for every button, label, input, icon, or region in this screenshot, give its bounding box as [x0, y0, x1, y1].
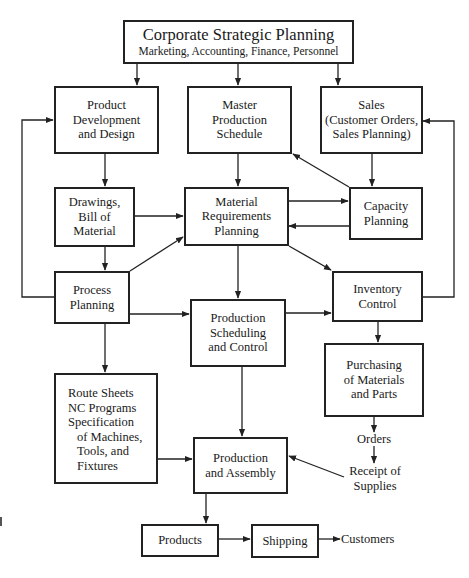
- node-inventory-control: Inventory Control: [332, 271, 423, 322]
- stray-mark: [0, 517, 2, 526]
- node-line: Planning: [70, 298, 114, 313]
- node-line: and Control: [208, 340, 267, 355]
- node-line: Scheduling: [210, 326, 266, 341]
- node-line: Material: [215, 195, 257, 210]
- node-line: and Design: [78, 127, 135, 142]
- label-customers: Customers: [341, 532, 394, 547]
- node-material-requirements-planning: Material Requirements Planning: [184, 187, 289, 246]
- node-production-scheduling-control: Production Scheduling and Control: [190, 299, 286, 367]
- arrow-capacity-to-mps: [293, 154, 349, 187]
- label-orders: Orders: [350, 432, 398, 447]
- node-line: Production: [212, 113, 267, 128]
- node-corporate-strategic-planning: Corporate Strategic Planning Marketing, …: [123, 20, 354, 64]
- node-line: Control: [358, 297, 396, 312]
- node-line: Material: [73, 224, 115, 239]
- node-purchasing: Purchasing of Materials and Parts: [324, 343, 424, 417]
- arrow-receipt-to-assembly: [289, 456, 344, 477]
- node-line: Sales: [358, 98, 384, 113]
- node-title: Corporate Strategic Planning: [143, 26, 335, 44]
- node-sales: Sales (Customer Orders, Sales Planning): [320, 86, 423, 154]
- node-line: Purchasing: [346, 358, 402, 373]
- arrow-process-to-mrp: [130, 237, 183, 271]
- node-line: Sales Planning): [332, 127, 410, 142]
- node-line: and Parts: [351, 387, 397, 402]
- label-line: Supplies: [340, 479, 410, 494]
- node-line: Production: [213, 451, 268, 466]
- node-line: Tools, and: [68, 444, 129, 459]
- node-line: Requirements: [202, 209, 271, 224]
- label-receipt-of-supplies: Receipt of Supplies: [340, 464, 410, 493]
- node-line: Product: [87, 98, 126, 113]
- node-subtitle: Marketing, Accounting, Finance, Personne…: [139, 44, 339, 58]
- node-line: Planning: [214, 224, 258, 239]
- node-line: of Materials: [344, 373, 405, 388]
- node-line: (Customer Orders,: [325, 113, 418, 128]
- label-line: Receipt of: [340, 464, 410, 479]
- node-line: of Machines,: [68, 430, 142, 445]
- node-route-sheets: Route Sheets NC Programs Specification o…: [54, 373, 158, 484]
- node-line: and Assembly: [205, 466, 275, 481]
- node-drawings-bill-of-material: Drawings, Bill of Material: [54, 187, 135, 247]
- node-product-development: Product Development and Design: [54, 86, 159, 154]
- node-line: Development: [73, 113, 140, 128]
- node-line: Shipping: [262, 534, 307, 549]
- node-process-planning: Process Planning: [54, 271, 130, 324]
- node-line: Specification: [68, 415, 134, 430]
- node-line: Drawings,: [69, 195, 121, 210]
- node-line: Bill of: [78, 210, 110, 225]
- node-line: Inventory: [353, 282, 402, 297]
- node-line: Products: [158, 533, 202, 548]
- node-production-and-assembly: Production and Assembly: [193, 437, 288, 494]
- node-line: Master: [222, 98, 257, 113]
- node-line: Route Sheets: [68, 386, 134, 401]
- node-line: Schedule: [217, 127, 263, 142]
- node-master-production-schedule: Master Production Schedule: [187, 86, 292, 154]
- node-capacity-planning: Capacity Planning: [349, 187, 423, 240]
- node-line: Production: [211, 311, 266, 326]
- arrow-inventory-to-sales: [422, 121, 454, 297]
- arrow-mrp-to-inventory: [289, 246, 331, 270]
- node-line: Process: [73, 283, 111, 298]
- node-products: Products: [141, 524, 219, 557]
- node-line: Planning: [364, 214, 408, 229]
- node-shipping: Shipping: [251, 524, 319, 558]
- node-line: NC Programs: [68, 401, 136, 416]
- node-line: Fixtures: [68, 459, 118, 474]
- node-line: Capacity: [364, 199, 408, 214]
- arrow-process-to-product-dev: [22, 120, 54, 297]
